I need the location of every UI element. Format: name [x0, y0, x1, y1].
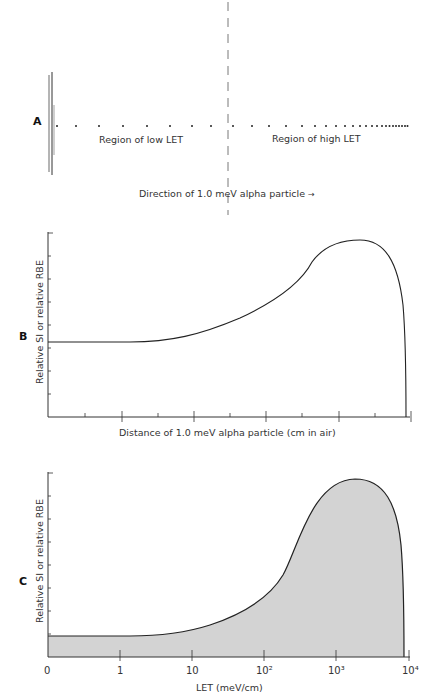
- x-tick-0: 0: [44, 665, 50, 676]
- panel-b-ylabel: Relative SI or relative RBE: [34, 260, 45, 384]
- panel-a-letter: A: [33, 115, 42, 128]
- panel-c-chart: [48, 472, 410, 661]
- panel-c-ylabel: Relative SI or relative RBE: [34, 499, 45, 623]
- x-tick-10: 10: [186, 665, 199, 676]
- high-let-label: Region of high LET: [272, 133, 361, 144]
- x-tick-1: 1: [117, 665, 123, 676]
- x-tick-100: 10²: [256, 665, 273, 676]
- direction-text: Direction of 1.0 meV alpha particle: [139, 188, 305, 199]
- low-let-label: Region of low LET: [99, 134, 183, 145]
- panel-c-xlabel: LET (meV/cm): [196, 682, 263, 693]
- panel-a-graphic: [49, 2, 409, 215]
- ionization-dots: [56, 125, 409, 127]
- x-tick-10000: 10⁴: [402, 665, 419, 676]
- panel-c-letter: C: [19, 575, 27, 588]
- arrow-right-icon: →: [308, 190, 315, 199]
- figure-graphics: [0, 0, 429, 700]
- direction-label: Direction of 1.0 meV alpha particle →: [139, 188, 315, 199]
- panel-b-chart: [48, 232, 411, 422]
- x-tick-1000: 10³: [328, 665, 345, 676]
- panel-b-xlabel: Distance of 1.0 meV alpha particle (cm i…: [119, 427, 336, 438]
- panel-b-letter: B: [19, 330, 27, 343]
